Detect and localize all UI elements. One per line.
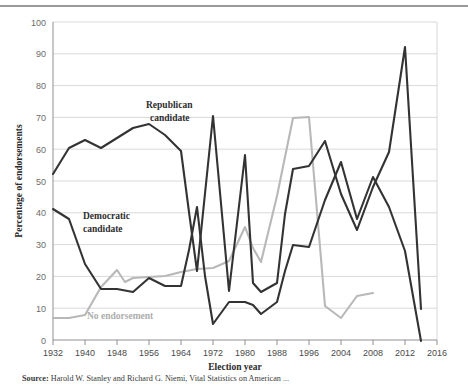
x-tick-2012: 2012: [395, 348, 415, 358]
y-tick-50: 50: [36, 177, 46, 187]
x-tick-2008: 2008: [363, 348, 383, 358]
y-axis-title: Percentage of endorsements: [14, 124, 24, 238]
annotation-republican-line2: candidate: [150, 113, 190, 123]
y-tick-labels: 100 90 80 70 60 50 40 30 20 10 0: [31, 18, 46, 346]
x-tick-1980: 1980: [235, 348, 255, 358]
x-tick-1988: 1988: [267, 348, 287, 358]
y-tick-40: 40: [36, 208, 46, 218]
source-text: Harold W. Stanley and Richard G. Niemi, …: [49, 374, 289, 383]
y-tick-0: 0: [41, 336, 46, 346]
x-tick-labels: 1932 1940 1948 1956 1964 1972 1980 1988 …: [43, 348, 447, 358]
x-tick-1996: 1996: [299, 348, 319, 358]
x-tick-2004: 2004: [331, 348, 351, 358]
y-tick-90: 90: [36, 49, 46, 59]
x-tick-1940: 1940: [75, 348, 95, 358]
source-note: Source: Harold W. Stanley and Richard G.…: [22, 374, 462, 383]
x-axis-title: Election year: [208, 362, 262, 372]
y-tick-80: 80: [36, 81, 46, 91]
y-tick-10: 10: [36, 304, 46, 314]
y-tick-70: 70: [36, 113, 46, 123]
x-tick-1972: 1972: [203, 348, 223, 358]
y-tick-20: 20: [36, 272, 46, 282]
x-tick-1956: 1956: [139, 348, 159, 358]
endorsement-line-chart: 100 90 80 70 60 50 40 30 20 10 0: [0, 0, 468, 387]
annotation-republican-line1: Republican: [146, 100, 193, 110]
x-tick-1932: 1932: [43, 348, 63, 358]
annotation-democratic-line1: Democratic: [83, 211, 130, 221]
x-tick-1964: 1964: [171, 348, 191, 358]
x-tick-marks: [53, 340, 437, 345]
y-tick-100: 100: [31, 18, 46, 28]
chart-plot-area: 100 90 80 70 60 50 40 30 20 10 0: [0, 0, 468, 387]
annotation-democratic-line2: candidate: [83, 224, 123, 234]
x-tick-2016: 2016: [427, 348, 447, 358]
y-tick-60: 60: [36, 145, 46, 155]
source-label: Source:: [22, 374, 49, 383]
x-tick-1948: 1948: [107, 348, 127, 358]
annotation-no-endorsement: No endorsement: [87, 311, 154, 321]
y-tick-30: 30: [36, 240, 46, 250]
